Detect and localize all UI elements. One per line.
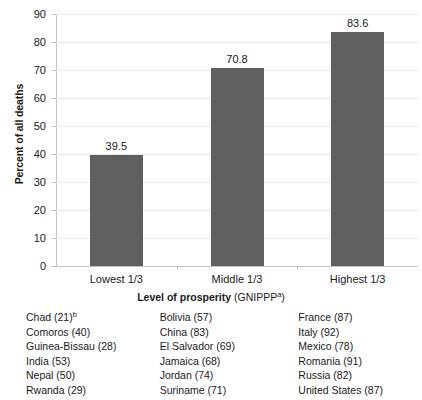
gridline: [56, 14, 418, 15]
y-axis-tick-label: 30: [6, 177, 46, 188]
bar-value-label: 83.6: [323, 18, 393, 29]
x-axis-category-label: Lowest 1/3: [56, 274, 176, 285]
bar-value-label: 70.8: [202, 54, 272, 65]
y-axis-tick-mark: [52, 238, 56, 239]
y-axis-tick-mark: [52, 126, 56, 127]
country-list-item: United States (87): [298, 383, 422, 398]
country-list-item: Italy (92): [298, 325, 422, 340]
country-list-item: Jamaica (68): [160, 354, 284, 369]
country-list-item: Rwanda (29): [26, 383, 150, 398]
y-axis-tick-label: 40: [6, 149, 46, 160]
x-axis-title-main: Level of prosperity: [137, 291, 231, 303]
country-column: Chad (21)bComoros (40)Guinea-Bissau (28)…: [0, 310, 150, 398]
country-list-item: India (53): [26, 354, 150, 369]
country-list-item: France (87): [298, 310, 422, 325]
gridline: [56, 266, 418, 267]
country-list-item: Comoros (40): [26, 325, 150, 340]
country-column: France (87)Italy (92)Mexico (78)Romania …: [283, 310, 422, 398]
country-footnote-table: Chad (21)bComoros (40)Guinea-Bissau (28)…: [0, 310, 422, 398]
x-axis-title-paren: (GNIPPP: [234, 291, 277, 303]
y-axis-tick-mark: [52, 210, 56, 211]
country-list-item: Russia (82): [298, 368, 422, 383]
y-axis-tick-label: 70: [6, 65, 46, 76]
y-axis-tick-label: 90: [6, 9, 46, 20]
y-axis-tick-mark: [52, 42, 56, 43]
y-axis-tick-mark: [52, 182, 56, 183]
y-axis-tick-mark: [52, 98, 56, 99]
y-axis-tick-mark: [52, 266, 56, 267]
y-axis-tick-mark: [52, 70, 56, 71]
country-column: Bolivia (57)China (83)El Salvador (69)Ja…: [150, 310, 284, 398]
bar: [90, 155, 143, 266]
bar-value-label: 39.5: [81, 141, 151, 152]
country-list-item: Mexico (78): [298, 339, 422, 354]
country-list-item: El Salvador (69): [160, 339, 284, 354]
y-axis-tick-label: 80: [6, 37, 46, 48]
country-list-item: Guinea-Bissau (28): [26, 339, 150, 354]
country-list-item: China (83): [160, 325, 284, 340]
bar: [331, 32, 384, 266]
category-separator: [297, 266, 298, 270]
country-list-item: Suriname (71): [160, 383, 284, 398]
y-axis-tick-label: 0: [6, 261, 46, 272]
category-separator: [177, 266, 178, 270]
country-footnote-marker: b: [73, 310, 77, 319]
y-axis-tick-mark: [52, 154, 56, 155]
country-list-item: Chad (21)b: [26, 310, 150, 325]
country-list-item: Nepal (50): [26, 368, 150, 383]
y-axis-tick-label: 60: [6, 93, 46, 104]
x-axis-category-label: Middle 1/3: [177, 274, 297, 285]
y-axis-line: [56, 14, 57, 266]
y-axis-tick-label: 20: [6, 205, 46, 216]
country-list-item: Jordan (74): [160, 368, 284, 383]
y-axis-tick-label: 10: [6, 233, 46, 244]
y-axis-tick-mark: [52, 14, 56, 15]
x-axis-title: Level of prosperity (GNIPPPa): [0, 291, 422, 303]
plot-area: 0102030405060708090 39.570.883.6: [56, 14, 418, 266]
x-axis-category-label: Highest 1/3: [298, 274, 418, 285]
country-list-item: Romania (91): [298, 354, 422, 369]
x-axis-title-paren-close: ): [281, 291, 285, 303]
y-axis-tick-label: 50: [6, 121, 46, 132]
bar: [211, 68, 264, 266]
country-list-item: Bolivia (57): [160, 310, 284, 325]
